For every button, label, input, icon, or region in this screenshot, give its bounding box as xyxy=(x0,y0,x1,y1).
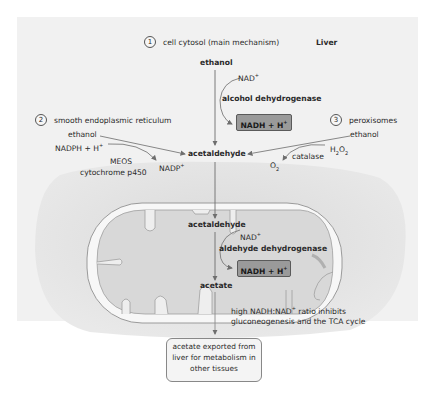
nad-cytosol-label: NAD+ xyxy=(238,73,259,82)
export-line-1: acetate exported from xyxy=(167,341,261,352)
pathway-number-2: 2 xyxy=(35,114,47,126)
pathway-number-1: 1 xyxy=(144,36,156,48)
aldehyde-dehydrogenase-label: aldehyde dehydrogenase xyxy=(219,245,327,253)
acetate-label: acetate xyxy=(200,282,232,290)
nad-mito-label: NAD+ xyxy=(240,232,261,241)
pathway-label-cytosol: cell cytosol (main mechanism) xyxy=(163,39,279,47)
catalase-label: catalase xyxy=(292,153,324,161)
export-line-3: other tissues xyxy=(167,363,261,374)
export-box: acetate exported from liver for metaboli… xyxy=(166,338,262,382)
h2o2-label: H2O2 xyxy=(330,146,348,156)
ethanol-label: ethanol xyxy=(200,59,233,67)
mito-acetaldehyde-label: acetaldehyde xyxy=(188,221,246,229)
meos-label: MEOS xyxy=(110,158,132,166)
pathway-label-er: smooth endoplasmic reticulum xyxy=(54,117,171,125)
pathway-label-peroxisome: peroxisomes xyxy=(349,117,397,125)
export-line-2: liver for metabolism in xyxy=(167,352,261,363)
nadh-box-cytosol: NADH + H+ xyxy=(236,114,292,131)
acetaldehyde-label: acetaldehyde xyxy=(188,150,246,158)
pathway-number-3: 3 xyxy=(330,114,342,126)
nadh-box-mito: NADH + H+ xyxy=(237,260,291,277)
er-ethanol-label: ethanol xyxy=(68,131,97,139)
o2-label: O2 xyxy=(270,162,279,172)
alcohol-dehydrogenase-label: alcohol dehydrogenase xyxy=(222,95,321,103)
peroxisome-ethanol-label: ethanol xyxy=(350,131,379,139)
note-line-2: gluconeogenesis and the TCA cycle xyxy=(231,318,365,326)
note-line-1: high NADH:NAD+ ratio inhibits xyxy=(231,306,346,315)
nadp-label: NADP+ xyxy=(159,163,185,172)
organ-label: Liver xyxy=(316,39,337,47)
cytochrome-label: cytochrome p450 xyxy=(80,169,147,177)
nadph-label: NADPH + H+ xyxy=(55,143,103,152)
